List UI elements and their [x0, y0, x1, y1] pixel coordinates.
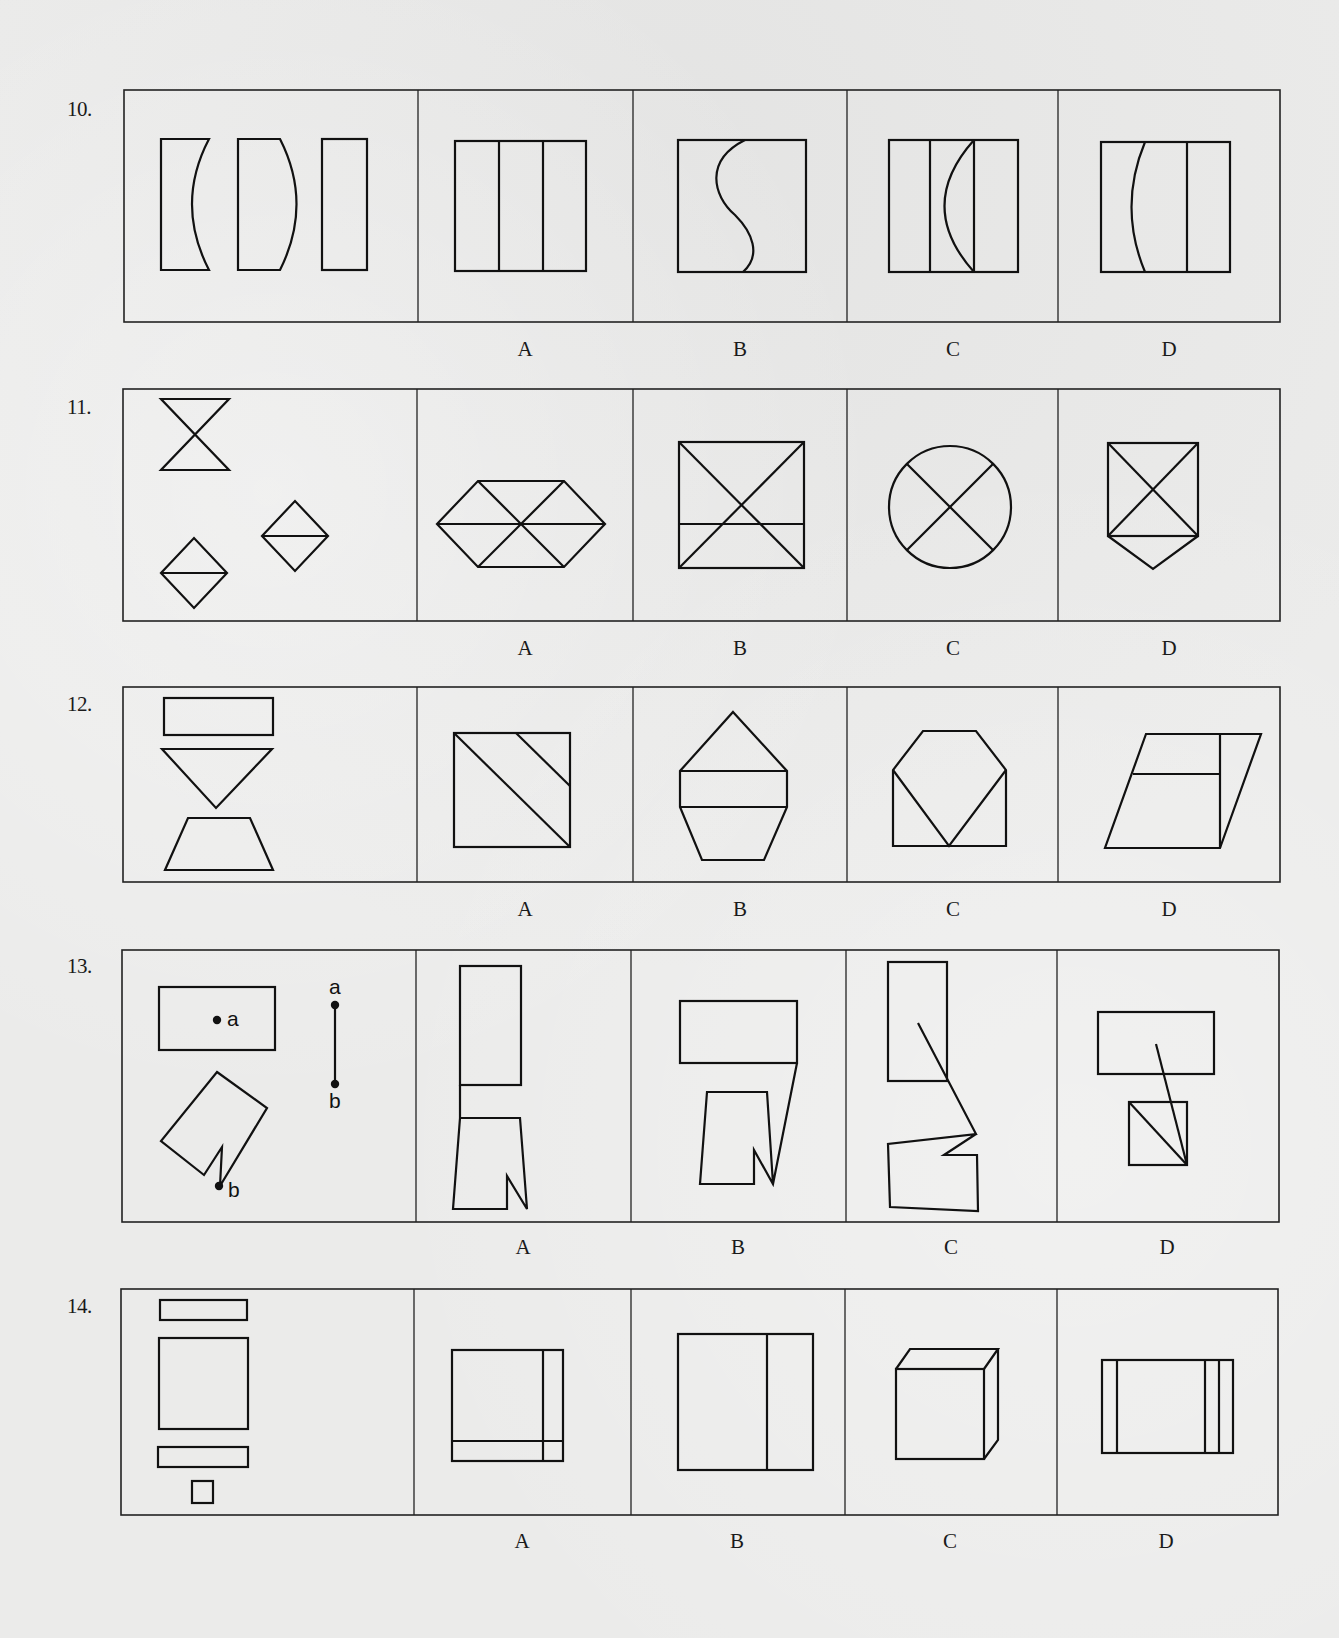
figure-line: [516, 733, 570, 786]
question-frame: [123, 687, 1280, 882]
figure-rect: [158, 1447, 248, 1467]
question-number: 11.: [67, 395, 91, 420]
point-label: a: [227, 1007, 239, 1030]
option-label-b: B: [733, 897, 747, 922]
question-12: [123, 687, 1280, 882]
figure-rect: [1102, 1360, 1233, 1453]
figure-poly: [680, 712, 787, 860]
figure-poly: [700, 1063, 797, 1184]
figure-poly: [1105, 734, 1261, 848]
option-label-d: D: [1161, 337, 1176, 362]
figure-poly: [165, 818, 273, 870]
point-marker: [331, 1080, 339, 1088]
option-label-d: D: [1158, 1529, 1173, 1554]
figure-path: [716, 140, 753, 272]
question-10: [124, 90, 1280, 322]
option-label-c: C: [944, 1235, 958, 1260]
option-label-c: C: [943, 1529, 957, 1554]
figure-path: [238, 139, 297, 270]
figure-rect: [460, 966, 521, 1085]
figure-rect: [678, 140, 806, 272]
question-number: 10.: [67, 97, 92, 122]
point-label: a: [329, 975, 341, 998]
figure-reasoning-questions: aabb: [0, 0, 1339, 1638]
figure-poly: [893, 731, 1006, 846]
figure-path: [1132, 142, 1146, 272]
figure-rect: [1101, 142, 1230, 272]
option-label-a: A: [517, 897, 532, 922]
question-number: 12.: [67, 692, 92, 717]
question-frame: [121, 1289, 1278, 1515]
figure-path: [945, 140, 975, 272]
figure-poly: [453, 1085, 527, 1209]
option-label-a: A: [514, 1529, 529, 1554]
figure-rect: [678, 1334, 813, 1470]
option-label-a: A: [517, 337, 532, 362]
question-11: [123, 389, 1280, 621]
figure-poly: [162, 749, 272, 808]
question-number: 13.: [67, 954, 92, 979]
figure-rect: [889, 140, 1018, 272]
figure-rect: [192, 1481, 213, 1503]
option-label-c: C: [946, 337, 960, 362]
figure-rect: [159, 1338, 248, 1429]
option-label-c: C: [946, 897, 960, 922]
figure-rect: [455, 141, 586, 271]
figure-rect: [680, 1001, 797, 1063]
question-13: aabb: [122, 950, 1279, 1222]
figure-poly: [161, 1072, 267, 1186]
figure-rect: [896, 1369, 984, 1459]
figure-poly: [896, 1349, 998, 1369]
figure-rect: [164, 698, 273, 735]
option-label-a: A: [515, 1235, 530, 1260]
point-label: b: [228, 1178, 240, 1201]
option-label-b: B: [731, 1235, 745, 1260]
question-14: [121, 1289, 1278, 1515]
point-marker: [213, 1016, 221, 1024]
option-label-a: A: [517, 636, 532, 661]
option-label-b: B: [733, 337, 747, 362]
figure-rect: [322, 139, 367, 270]
option-label-b: B: [733, 636, 747, 661]
option-label-d: D: [1161, 636, 1176, 661]
figure-poly: [888, 1023, 978, 1211]
figure-poly: [1108, 536, 1198, 569]
question-frame: [123, 389, 1280, 621]
figure-rect: [452, 1350, 563, 1461]
question-number: 14.: [67, 1294, 92, 1319]
point-label: b: [329, 1089, 341, 1112]
option-label-b: B: [730, 1529, 744, 1554]
figure-rect: [1098, 1012, 1214, 1074]
point-marker: [215, 1182, 223, 1190]
option-label-d: D: [1159, 1235, 1174, 1260]
figure-line: [454, 733, 570, 847]
figure-path: [161, 139, 209, 270]
figure-rect: [160, 1300, 247, 1320]
figure-poly: [893, 770, 1006, 846]
figure-poly: [161, 399, 229, 470]
point-marker: [331, 1001, 339, 1009]
option-label-c: C: [946, 636, 960, 661]
option-label-d: D: [1161, 897, 1176, 922]
